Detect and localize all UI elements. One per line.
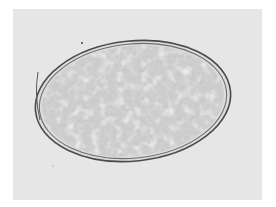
speck bbox=[81, 42, 83, 44]
egg-micrograph bbox=[0, 0, 276, 207]
speck bbox=[52, 165, 53, 166]
